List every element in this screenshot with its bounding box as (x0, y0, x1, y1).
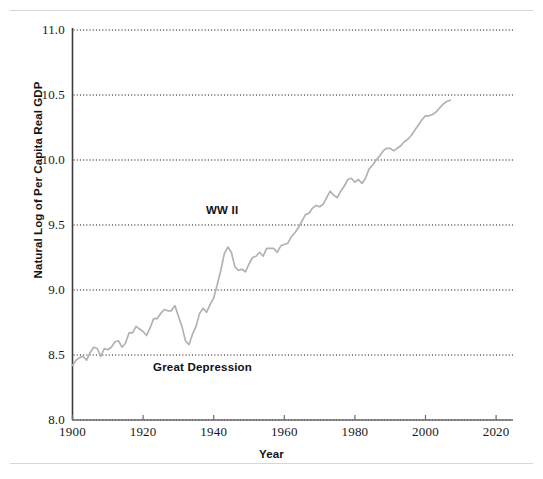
x-axis-tick-label: 1960 (261, 424, 307, 440)
annotation-ww2: WW II (206, 204, 238, 216)
data-series-group (73, 100, 451, 365)
x-axis-tick-label: 1900 (50, 424, 96, 440)
y-axis-tick-label: 9.0 (25, 282, 65, 298)
x-axis-tick-label: 2000 (403, 424, 449, 440)
y-axis-tick-label: 9.5 (25, 217, 65, 233)
data-line (73, 100, 451, 365)
chart-plot-area (0, 14, 543, 460)
page-top-rule (10, 10, 533, 11)
x-axis-ticks (73, 415, 497, 420)
x-axis-title: Year (0, 448, 543, 460)
x-axis-tick-label: 1920 (120, 424, 166, 440)
page-bottom-rule (10, 463, 533, 464)
figure-page: 8.08.59.09.510.010.511.0 190019201940196… (0, 0, 543, 479)
y-axis-tick-label: 10.5 (25, 87, 65, 103)
y-axis-tick-label: 8.5 (25, 347, 65, 363)
y-axis-title: Natural Log of Per Capita Real GDP (32, 80, 44, 280)
x-axis-tick-label: 1940 (191, 424, 237, 440)
chart-figure: 8.08.59.09.510.010.511.0 190019201940196… (0, 14, 543, 460)
gridlines (74, 30, 516, 420)
y-axis-tick-label: 11.0 (25, 22, 65, 38)
x-axis-tick-label: 2020 (473, 424, 519, 440)
y-axis-tick-label: 10.0 (25, 152, 65, 168)
x-axis-tick-label: 1980 (332, 424, 378, 440)
annotation-great-depression: Great Depression (153, 361, 252, 373)
